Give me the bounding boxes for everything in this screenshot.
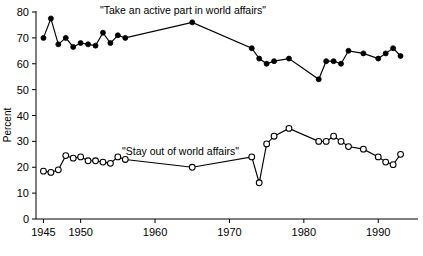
line-chart: 01020304050607080 1945195019601970198019… bbox=[0, 0, 423, 256]
data-point-marker bbox=[100, 30, 105, 35]
data-point-marker bbox=[78, 41, 83, 46]
data-point-marker bbox=[86, 42, 91, 47]
data-point-marker bbox=[189, 164, 195, 170]
data-point-marker bbox=[48, 16, 53, 21]
y-tick-label: 30 bbox=[17, 135, 29, 147]
x-tick-label: 1950 bbox=[68, 226, 92, 238]
chart-container: 01020304050607080 1945195019601970198019… bbox=[0, 0, 423, 256]
y-tick-label: 70 bbox=[17, 32, 29, 44]
data-point-marker bbox=[100, 159, 106, 165]
y-tick-label: 60 bbox=[17, 58, 29, 70]
data-point-marker bbox=[339, 61, 344, 66]
x-tick-label: 1960 bbox=[143, 226, 167, 238]
y-tick-label: 50 bbox=[17, 84, 29, 96]
series-active-part bbox=[41, 16, 403, 82]
data-point-marker bbox=[85, 158, 91, 164]
data-point-marker bbox=[324, 59, 329, 64]
data-point-marker bbox=[55, 167, 61, 173]
data-point-marker bbox=[56, 42, 61, 47]
data-point-marker bbox=[375, 154, 381, 160]
data-point-marker bbox=[123, 35, 128, 40]
x-axis: 194519501960197019801990 bbox=[31, 219, 418, 238]
annotation-stay-out: "Stay out of world affairs" bbox=[122, 145, 239, 157]
data-point-marker bbox=[63, 153, 69, 159]
data-point-marker bbox=[346, 48, 351, 53]
data-point-marker bbox=[390, 162, 396, 168]
data-point-marker bbox=[108, 160, 114, 166]
x-tick-label: 1990 bbox=[366, 226, 390, 238]
y-tick-label: 10 bbox=[17, 187, 29, 199]
annotation-active-part: "Take an active part in world affairs" bbox=[100, 4, 266, 16]
data-point-marker bbox=[360, 146, 366, 152]
data-point-marker bbox=[346, 144, 352, 150]
data-point-marker bbox=[272, 59, 277, 64]
data-point-marker bbox=[257, 56, 262, 61]
data-point-marker bbox=[316, 77, 321, 82]
x-tick-label: 1970 bbox=[217, 226, 241, 238]
data-point-marker bbox=[383, 51, 388, 56]
data-point-marker bbox=[361, 51, 366, 56]
data-point-marker bbox=[71, 44, 76, 49]
data-point-marker bbox=[376, 56, 381, 61]
data-point-marker bbox=[48, 170, 54, 176]
series-layer bbox=[41, 16, 404, 186]
data-point-marker bbox=[249, 46, 254, 51]
data-point-marker bbox=[316, 138, 322, 144]
data-point-marker bbox=[115, 33, 120, 38]
y-tick-label: 40 bbox=[17, 110, 29, 122]
data-point-marker bbox=[78, 154, 84, 160]
y-axis-title: Percent bbox=[2, 108, 13, 143]
data-point-marker bbox=[331, 59, 336, 64]
data-point-marker bbox=[323, 138, 329, 144]
data-point-marker bbox=[108, 41, 113, 46]
data-point-marker bbox=[122, 157, 128, 163]
data-point-marker bbox=[286, 126, 292, 132]
data-point-marker bbox=[286, 56, 291, 61]
data-point-marker bbox=[63, 35, 68, 40]
data-point-marker bbox=[256, 180, 262, 186]
data-point-marker bbox=[271, 133, 277, 139]
data-point-marker bbox=[190, 20, 195, 25]
y-tick-label: 80 bbox=[17, 6, 29, 18]
data-point-marker bbox=[338, 138, 344, 144]
data-point-marker bbox=[331, 133, 337, 139]
data-point-marker bbox=[115, 154, 121, 160]
y-tick-label: 0 bbox=[23, 213, 29, 225]
data-point-marker bbox=[264, 141, 270, 147]
y-tick-label: 20 bbox=[17, 161, 29, 173]
data-point-marker bbox=[398, 53, 403, 58]
data-point-marker bbox=[41, 35, 46, 40]
data-point-marker bbox=[398, 151, 404, 157]
data-point-marker bbox=[70, 155, 76, 161]
data-point-marker bbox=[41, 168, 47, 174]
data-point-marker bbox=[249, 154, 255, 160]
data-point-marker bbox=[383, 159, 389, 165]
x-tick-label: 1945 bbox=[31, 226, 55, 238]
x-tick-label: 1980 bbox=[292, 226, 316, 238]
annotation-layer: "Take an active part in world affairs""S… bbox=[100, 4, 266, 157]
y-axis: 01020304050607080 bbox=[17, 6, 36, 225]
data-point-marker bbox=[93, 158, 99, 164]
data-point-marker bbox=[93, 43, 98, 48]
data-point-marker bbox=[264, 61, 269, 66]
data-point-marker bbox=[391, 46, 396, 51]
